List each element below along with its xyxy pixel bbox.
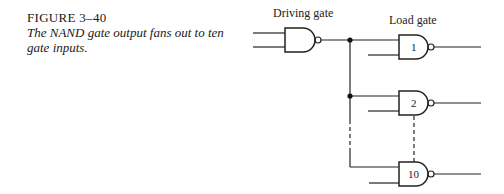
load-nand-gate-1 — [368, 35, 481, 59]
load-nand-gate-2 — [368, 91, 481, 115]
fanout-diagram: Driving gate Load gate 1 2 10 — [0, 0, 504, 194]
junction-dot — [347, 37, 352, 42]
gate-number-10: 10 — [408, 168, 420, 180]
load-nand-gate-10 — [369, 162, 481, 186]
gate-number-2: 2 — [411, 97, 417, 109]
driving-gate-label: Driving gate — [273, 6, 333, 20]
gate-number-1: 1 — [411, 41, 417, 53]
junction-dot — [347, 93, 352, 98]
load-gate-label: Load gate — [389, 13, 437, 27]
driving-nand-gate — [253, 28, 321, 52]
